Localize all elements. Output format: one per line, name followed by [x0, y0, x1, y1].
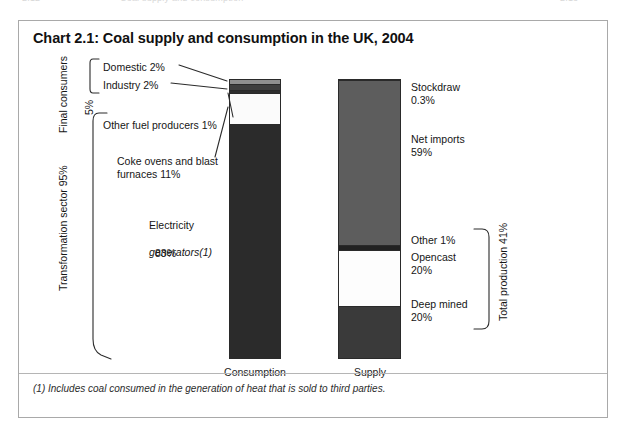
footnote-divider [19, 373, 607, 374]
annotation-stockdraw: Stockdraw 0.3% [411, 81, 460, 106]
leader-industry [171, 83, 227, 89]
page-header-right: 2.13 [560, 0, 578, 3]
segment-net-imports[interactable] [339, 81, 400, 246]
chart-frame: Chart 2.1: Coal supply and consumption i… [18, 20, 608, 418]
segment-coke-ovens[interactable] [230, 94, 280, 125]
annotation-other-fuel-producers: Other fuel producers 1% [103, 119, 217, 132]
bar-consumption[interactable] [229, 79, 281, 359]
segment-electricity-generators[interactable] [230, 125, 280, 359]
annotation-electricity-generators-percent: 83% [155, 247, 176, 260]
bracket-total-production [474, 229, 489, 329]
plot-area: Consumption Supply Final consumers 5% Tr… [19, 21, 607, 372]
page-header-center: Coal supply and consumption [120, 0, 243, 3]
axis-label-supply: Supply [324, 366, 416, 378]
group-label-final-consumers: Final consumers [57, 56, 69, 133]
page-header-left: 2.12 [22, 0, 40, 3]
bracket-transformation-sector [93, 113, 111, 359]
segment-opencast[interactable] [339, 251, 400, 307]
axis-label-consumption: Consumption [209, 366, 301, 378]
annotation-coke-ovens: Coke ovens and blast furnaces 11% [117, 155, 218, 180]
annotation-opencast: Opencast 20% [411, 251, 456, 276]
leader-domestic [179, 65, 227, 81]
page-running-header: 2.12 Coal supply and consumption 2.13 [0, 0, 626, 14]
segment-deep-mined[interactable] [339, 307, 400, 359]
group-label-transformation-sector: Transformation sector 95% [57, 165, 69, 291]
annotation-net-imports: Net imports 59% [411, 133, 465, 158]
leader-coke-ovens [215, 107, 228, 157]
annotation-industry: Industry 2% [103, 79, 158, 92]
annotation-deep-mined: Deep mined 20% [411, 298, 468, 323]
group-label-final-consumers-percent: 5% [83, 100, 95, 115]
chart-footnote: (1) Includes coal consumed in the genera… [33, 383, 385, 394]
annotation-domestic: Domestic 2% [103, 61, 165, 74]
annotation-electricity-generators-line1: Electricity [149, 219, 194, 232]
bar-supply[interactable] [338, 79, 401, 359]
group-label-total-production: Total production 41% [497, 223, 509, 321]
annotation-other: Other 1% [411, 234, 455, 247]
bracket-final-consumers [90, 59, 99, 93]
